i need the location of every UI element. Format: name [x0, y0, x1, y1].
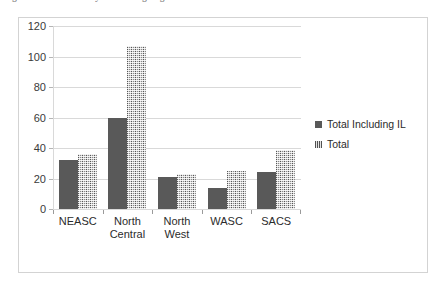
bar — [276, 150, 295, 209]
bar-group — [108, 26, 146, 209]
x-axis-category-label: North West — [152, 215, 202, 241]
bar — [158, 177, 177, 209]
bar — [208, 188, 227, 209]
chart-plot-area: 020406080100120 — [53, 26, 301, 210]
y-axis-tick-mark — [49, 57, 53, 58]
bar — [127, 46, 146, 209]
y-axis-tick-label: 20 — [34, 173, 46, 185]
legend-swatch-icon — [315, 121, 322, 128]
legend-item-label: Total — [327, 138, 349, 150]
bar — [227, 171, 246, 209]
bar-group — [208, 26, 246, 209]
bar — [108, 118, 127, 210]
y-axis-tick-mark — [49, 148, 53, 149]
y-axis-tick-mark — [49, 87, 53, 88]
x-axis-category-label: NEASC — [53, 215, 103, 228]
y-axis-tick-label: 60 — [34, 112, 46, 124]
x-axis-tick-mark — [300, 210, 301, 214]
chart-legend: Total Including ILTotal — [315, 114, 425, 154]
y-axis-tick-label: 0 — [40, 203, 46, 215]
x-axis-tick-mark — [202, 210, 203, 214]
legend-swatch-icon — [315, 141, 322, 148]
y-axis-tick-mark — [49, 118, 53, 119]
figure-caption-strip: Figure 4.3 Institutions by Accrediting R… — [0, 0, 442, 13]
legend-item-label: Total Including IL — [327, 118, 406, 130]
x-axis-category-label: SACS — [251, 215, 301, 228]
x-axis-tick-mark — [251, 210, 252, 214]
y-axis-tick-label: 120 — [28, 20, 46, 32]
x-axis-category-label: WASC — [202, 215, 252, 228]
gridline — [53, 209, 301, 210]
bar-group — [59, 26, 97, 209]
legend-item[interactable]: Total Including IL — [315, 114, 425, 134]
figure-caption-text: Figure 4.3 Institutions by Accrediting R… — [4, 0, 177, 2]
y-axis-tick-label: 80 — [34, 81, 46, 93]
y-axis-tick-label: 40 — [34, 142, 46, 154]
bar — [78, 154, 97, 209]
x-axis-category-label: North Central — [103, 215, 153, 241]
bar — [59, 160, 78, 209]
y-axis-tick-label: 100 — [28, 51, 46, 63]
x-axis-tick-mark — [53, 210, 54, 214]
x-axis-tick-mark — [103, 210, 104, 214]
bar-group — [257, 26, 295, 209]
y-axis-tick-mark — [49, 179, 53, 180]
figure-frame: 020406080100120 NEASCNorth CentralNorth … — [18, 17, 428, 273]
bar-group — [158, 26, 196, 209]
bar — [177, 174, 196, 209]
bar — [257, 172, 276, 209]
x-axis-tick-mark — [152, 210, 153, 214]
legend-item[interactable]: Total — [315, 134, 425, 154]
y-axis-tick-mark — [49, 26, 53, 27]
